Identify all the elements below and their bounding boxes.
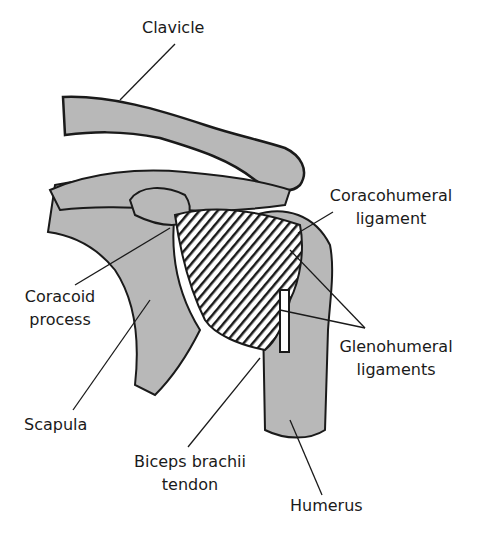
label-coracohumeral-line2: ligament [321,209,461,229]
shoulder-anatomy-diagram: Clavicle Coracohumeral ligament Coracoid… [0,0,481,534]
label-humerus: Humerus [290,496,363,516]
label-clavicle: Clavicle [142,18,204,38]
label-coracoid-line1: Coracoid [15,287,105,307]
label-scapula: Scapula [24,415,87,435]
biceps-tendon-shape [280,290,289,352]
label-glenohumeral-line2: ligaments [326,360,466,380]
label-biceps-line1: Biceps brachii [110,452,270,472]
label-coracoid-line2: process [15,310,105,330]
label-biceps-line2: tendon [110,475,270,495]
label-coracohumeral-line1: Coracohumeral [321,186,461,206]
label-glenohumeral-line1: Glenohumeral [326,337,466,357]
